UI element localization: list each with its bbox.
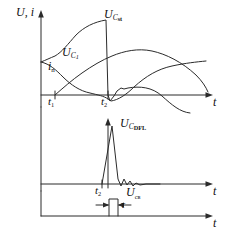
curve-label-u-cst: UCst: [104, 8, 122, 22]
curve-u-cs-pulse: [109, 199, 118, 216]
time-marker-t2-middle: t2: [95, 185, 101, 197]
curve-label-u-cs: Ucв: [126, 186, 140, 200]
middle-panel-y-axis-arrow: [105, 118, 111, 126]
time-marker-t2-top-sub: 2: [104, 102, 107, 108]
time-marker-t2-top: t2: [101, 96, 107, 108]
tau-label: τ: [121, 199, 125, 210]
curve-label-u-c1: UC1: [62, 46, 79, 60]
bottom-panel-x-axis-label: t: [213, 217, 216, 229]
curve-label-u-cdfl: UCDFL: [120, 117, 146, 131]
bottom-panel-x-axis-arrow: [206, 213, 214, 219]
time-marker-t2-middle-sub: 2: [98, 191, 101, 197]
figure-root: U, i t UCst UC1 in t1 t2 UCDFL t t2 Ucв …: [0, 0, 236, 238]
curve-u-cdfl: [102, 126, 160, 186]
curve-u-cst: [41, 20, 190, 113]
middle-panel-x-axis-label: t: [213, 185, 216, 197]
curve-label-u-cst-sub2: st: [118, 16, 123, 22]
waveform-diagram-canvas: [0, 0, 236, 238]
top-panel-y-axis-arrow: [38, 10, 44, 18]
curve-label-i-n-sub: n: [51, 67, 54, 74]
curve-label-u-cs-sub: cв: [135, 194, 141, 200]
time-marker-t1: t1: [48, 96, 54, 108]
curve-label-u-cdfl-sub2: DFL: [134, 125, 146, 131]
top-panel-y-axis-label: U, i: [16, 6, 34, 18]
curve-label-i-n: in: [48, 60, 55, 74]
curve-label-u-c1-sub2: 1: [76, 54, 79, 60]
middle-panel-x-axis-arrow: [206, 181, 214, 187]
time-marker-t1-sub: 1: [51, 102, 54, 108]
top-panel-x-axis-label: t: [213, 96, 216, 108]
top-panel-x-axis-arrow: [206, 92, 214, 98]
